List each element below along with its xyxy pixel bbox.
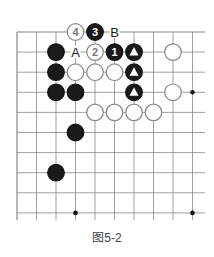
- white-stone: [165, 84, 182, 101]
- black-stone: [67, 124, 84, 141]
- point-label: A: [71, 45, 80, 60]
- black-stone: [48, 64, 65, 81]
- white-stone: [67, 64, 84, 81]
- black-stone: [126, 44, 143, 61]
- black-stone: [48, 84, 65, 101]
- white-stone: 4: [67, 24, 84, 41]
- white-stone: [126, 104, 143, 121]
- black-stone: [126, 84, 143, 101]
- go-board: BA4321: [0, 0, 214, 225]
- white-stone: [87, 104, 104, 121]
- white-stone: 2: [87, 44, 104, 61]
- black-stone: 3: [87, 24, 104, 41]
- black-stone: [48, 44, 65, 61]
- svg-text:1: 1: [111, 46, 117, 58]
- svg-text:3: 3: [92, 26, 98, 38]
- figure-caption: 图5-2: [0, 228, 214, 245]
- svg-text:2: 2: [92, 46, 98, 58]
- white-stone: [106, 64, 123, 81]
- hoshi-dot: [73, 211, 78, 216]
- black-stone: [126, 64, 143, 81]
- black-stone: 1: [106, 44, 123, 61]
- black-stone: [48, 164, 65, 181]
- black-stone: [67, 84, 84, 101]
- white-stone: [145, 104, 162, 121]
- white-stone: [87, 64, 104, 81]
- white-stone: [165, 44, 182, 61]
- hoshi-dot: [190, 90, 195, 95]
- svg-text:4: 4: [72, 26, 79, 38]
- point-label: B: [110, 25, 119, 40]
- white-stone: [106, 104, 123, 121]
- hoshi-dot: [190, 211, 195, 216]
